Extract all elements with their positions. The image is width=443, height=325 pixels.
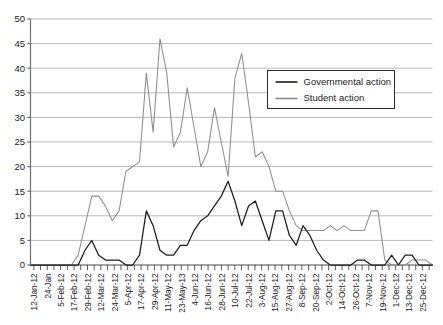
x-tick-label-10-Jul-12: 10-Jul-12: [231, 273, 240, 308]
x-tick-label-8-Sep-12: 8-Sep-12: [298, 273, 307, 307]
x-tick-label-28-Jun-12: 28-Jun-12: [218, 273, 227, 310]
x-tick-label-5-Feb-12: 5-Feb-12: [57, 273, 66, 307]
x-tick-label-29-Feb-12: 29-Feb-12: [84, 273, 93, 311]
x-tick-label-15-Aug-12: 15-Aug-12: [271, 273, 280, 312]
y-tick-label-5: 5: [20, 235, 25, 246]
x-tickmarks: [34, 265, 429, 270]
legend-label-governmental-action: Governmental action: [304, 76, 392, 87]
x-tick-label-29-Apr-12: 29-Apr-12: [151, 273, 160, 310]
x-tick-label-7-Nov-12: 7-Nov-12: [365, 273, 374, 307]
x-tick-label-19-Nov-12: 19-Nov-12: [379, 273, 388, 312]
x-tick-label-27-Aug-12: 27-Aug-12: [285, 273, 294, 312]
x-tick-label-22-Jul-12: 22-Jul-12: [245, 273, 254, 308]
y-tick-label-30: 30: [14, 112, 25, 123]
y-tick-label-0: 0: [20, 259, 25, 270]
y-tick-label-25: 25: [14, 136, 25, 147]
y-tick-label-40: 40: [14, 63, 25, 74]
line-chart-svg: 0510152025303540455012-Jan-1224-Jan5-Feb…: [0, 0, 443, 325]
x-tick-label-25-Dec-12: 25-Dec-12: [419, 273, 428, 312]
x-tick-label-2-Oct-12: 2-Oct-12: [325, 273, 334, 305]
chart-container: 0510152025303540455012-Jan-1224-Jan5-Feb…: [0, 0, 443, 325]
x-tick-label-24-Mar-12: 24-Mar-12: [111, 273, 120, 311]
x-tick-label-12-Mar-12: 12-Mar-12: [97, 273, 106, 311]
x-tick-labels: 12-Jan-1224-Jan5-Feb-1217-Feb-1229-Feb-1…: [30, 273, 428, 313]
legend-label-student-action: Student action: [304, 92, 365, 103]
x-tick-label-5-Apr-12: 5-Apr-12: [124, 273, 133, 305]
x-tick-label-26-Oct-12: 26-Oct-12: [352, 273, 361, 310]
y-tick-label-20: 20: [14, 161, 25, 172]
x-tick-label-17-Feb-12: 17-Feb-12: [70, 273, 79, 311]
y-tick-label-45: 45: [14, 38, 25, 49]
y-tick-label-35: 35: [14, 87, 25, 98]
y-tick-label-10: 10: [14, 210, 25, 221]
x-tick-label-16-Jun-12: 16-Jun-12: [204, 273, 213, 310]
x-tick-label-14-Oct-12: 14-Oct-12: [338, 273, 347, 310]
x-tick-label-11-May-12: 11-May-12: [164, 273, 173, 312]
x-tick-label-4-Jun-12: 4-Jun-12: [191, 273, 200, 306]
y-gridlines: 05101520253035404550: [14, 13, 432, 270]
x-tick-label-3-Aug-12: 3-Aug-12: [258, 273, 267, 307]
x-tick-label-17-Apr-12: 17-Apr-12: [137, 273, 146, 310]
series-line-governmental-action: [31, 181, 433, 265]
x-tick-label-23-May-13: 23-May-13: [178, 273, 187, 313]
y-tick-label-15: 15: [14, 186, 25, 197]
y-tick-label-50: 50: [14, 13, 25, 24]
x-tick-label-13-Dec-12: 13-Dec-12: [405, 273, 414, 312]
x-tick-label-12-Jan-12: 12-Jan-12: [30, 273, 39, 310]
x-tick-label-20-Sep-12: 20-Sep-12: [312, 273, 321, 312]
x-tick-label-1-Dec-12: 1-Dec-12: [392, 273, 401, 307]
x-tick-label-24-Jan: 24-Jan: [44, 273, 53, 298]
chart-legend: Governmental actionStudent action: [268, 71, 395, 109]
